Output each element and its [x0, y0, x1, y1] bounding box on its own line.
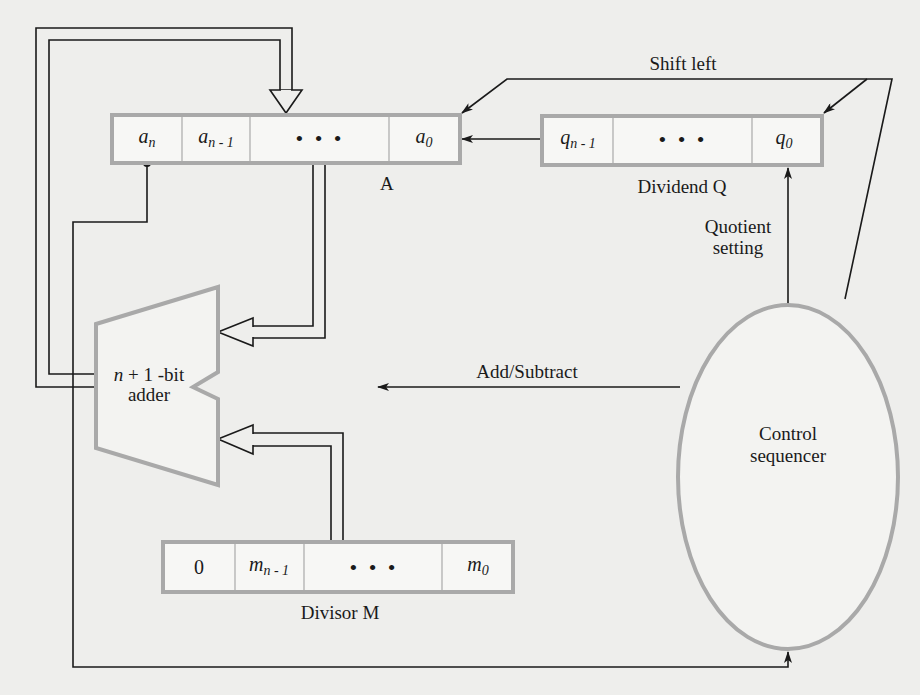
m-to-adder-bus [218, 425, 343, 540]
control-sequencer-shape [678, 305, 898, 649]
register-a [112, 115, 460, 163]
quotient-setting-label-line1: Quotient [705, 217, 772, 236]
add-subtract-label: Add/Subtract [476, 362, 577, 381]
division-circuit-diagram: an an - 1 • • • a0 A qn - 1 • • • q0 Div… [0, 0, 920, 695]
register-m-cell-m0: m0 [467, 554, 488, 578]
control-sequencer-label-line1: Control [759, 424, 817, 443]
quotient-setting-label-line2: setting [713, 238, 764, 257]
adder-label-line1: n + 1 -bit [114, 365, 184, 384]
a-to-adder-bus [218, 165, 325, 346]
control-sequencer-label-line2: sequencer [750, 446, 826, 465]
shift-left-label: Shift left [649, 54, 716, 73]
register-m [163, 542, 513, 592]
register-m-label: Divisor M [301, 603, 380, 622]
diagram-lines [0, 0, 920, 695]
register-q-cell-ellipsis: • • • [658, 129, 707, 151]
register-m-cell-zero: 0 [194, 557, 204, 577]
register-a-cell-an: an [139, 126, 156, 150]
adder-label-line2: adder [128, 385, 170, 404]
register-a-cell-a0: a0 [416, 126, 433, 150]
register-a-label: A [380, 174, 394, 193]
register-m-cell-ellipsis: • • • [349, 557, 398, 579]
register-a-cell-an-1: an - 1 [198, 126, 234, 150]
register-m-cell-mn-1: mn - 1 [249, 554, 289, 578]
register-q-cell-q0: q0 [776, 127, 793, 151]
register-a-cell-ellipsis: • • • [295, 128, 344, 150]
register-q-cell-qn-1: qn - 1 [560, 127, 596, 151]
register-q-label: Dividend Q [637, 177, 726, 196]
